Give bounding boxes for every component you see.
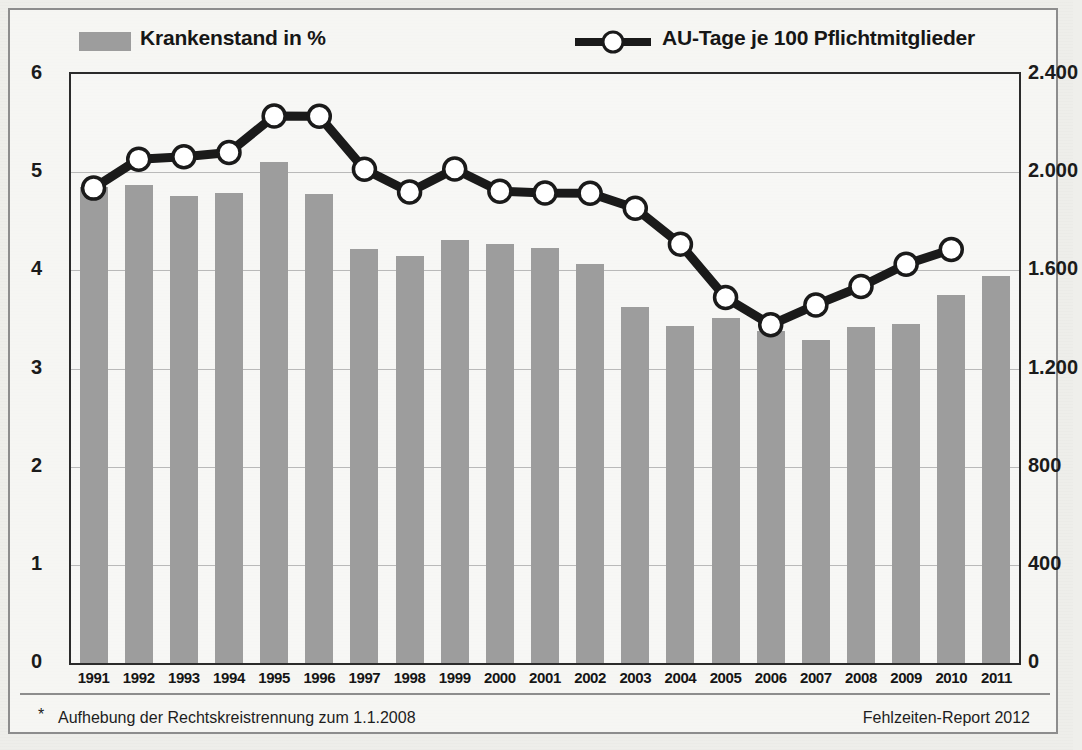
left-tick-4: 4 xyxy=(2,257,42,280)
line-marker-2007 xyxy=(805,294,827,316)
chart-legend: Krankenstand in % AU-Tage je 100 Pflicht… xyxy=(10,24,1056,58)
right-tick-0: 0 xyxy=(1028,650,1082,673)
right-tick-2.400: 2.400 xyxy=(1028,61,1082,84)
legend-bar-swatch xyxy=(79,32,131,51)
line-marker-2001 xyxy=(534,182,556,204)
x-tick-2005: 2005 xyxy=(703,669,748,686)
line-marker-1997 xyxy=(353,158,375,180)
x-tick-1992: 1992 xyxy=(116,669,161,686)
x-tick-1995: 1995 xyxy=(252,669,297,686)
line-marker-2009 xyxy=(895,253,917,275)
line-marker-2005 xyxy=(715,287,737,309)
x-tick-2010: 2010 xyxy=(929,669,974,686)
line-marker-1999 xyxy=(444,158,466,180)
left-tick-3: 3 xyxy=(2,356,42,379)
x-tick-2007: 2007 xyxy=(793,669,838,686)
right-tick-400: 400 xyxy=(1028,552,1082,575)
line-marker-2006 xyxy=(760,314,782,336)
right-tick-1.200: 1.200 xyxy=(1028,356,1082,379)
x-tick-1999: 1999 xyxy=(432,669,477,686)
x-tick-1991: 1991 xyxy=(71,669,116,686)
line-marker-2004 xyxy=(669,233,691,255)
left-tick-5: 5 xyxy=(2,159,42,182)
left-tick-6: 6 xyxy=(2,61,42,84)
right-tick-800: 800 xyxy=(1028,454,1082,477)
x-tick-1994: 1994 xyxy=(206,669,251,686)
x-tick-1993: 1993 xyxy=(161,669,206,686)
line-marker-2000 xyxy=(489,180,511,202)
line-marker-2010 xyxy=(940,238,962,260)
right-tick-1.600: 1.600 xyxy=(1028,257,1082,280)
line-marker-1995 xyxy=(263,105,285,127)
x-tick-2006: 2006 xyxy=(748,669,793,686)
x-tick-2009: 2009 xyxy=(884,669,929,686)
line-series xyxy=(71,74,1019,663)
x-tick-1998: 1998 xyxy=(387,669,432,686)
x-tick-2003: 2003 xyxy=(613,669,658,686)
x-tick-2008: 2008 xyxy=(838,669,883,686)
line-marker-1992 xyxy=(128,148,150,170)
line-marker-2003 xyxy=(624,197,646,219)
x-tick-1997: 1997 xyxy=(342,669,387,686)
footer-divider xyxy=(20,693,1050,695)
legend-line-label: AU-Tage je 100 Pflichtmitglieder xyxy=(662,26,975,50)
left-tick-2: 2 xyxy=(2,454,42,477)
source-label: Fehlzeiten-Report 2012 xyxy=(863,709,1030,727)
line-marker-2008 xyxy=(850,276,872,298)
x-tick-2011: 2011 xyxy=(974,669,1019,686)
line-marker-2002 xyxy=(579,182,601,204)
line-marker-1998 xyxy=(399,181,421,203)
x-tick-1996: 1996 xyxy=(297,669,342,686)
footnote-text: Aufhebung der Rechtskreistrennung zum 1.… xyxy=(58,709,416,727)
chart-frame: Krankenstand in % AU-Tage je 100 Pflicht… xyxy=(8,8,1058,734)
legend-line-marker-icon xyxy=(573,29,653,55)
line-marker-1991 xyxy=(83,177,105,199)
right-tick-2.000: 2.000 xyxy=(1028,159,1082,182)
x-tick-2004: 2004 xyxy=(658,669,703,686)
x-tick-2002: 2002 xyxy=(568,669,613,686)
left-tick-1: 1 xyxy=(2,552,42,575)
x-tick-2001: 2001 xyxy=(522,669,567,686)
legend-bar-label: Krankenstand in % xyxy=(140,26,326,50)
line-marker-1994 xyxy=(218,142,240,164)
left-tick-0: 0 xyxy=(2,650,42,673)
plot-area xyxy=(69,72,1021,665)
x-tick-2000: 2000 xyxy=(477,669,522,686)
line-marker-1993 xyxy=(173,146,195,168)
footnote-marker: * xyxy=(38,706,44,724)
line-marker-1996 xyxy=(308,105,330,127)
